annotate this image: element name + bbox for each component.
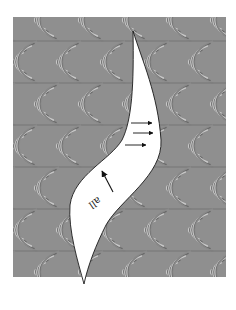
figure-canvas: all [0,0,236,310]
marbled-flow-diagram: all [0,0,236,310]
